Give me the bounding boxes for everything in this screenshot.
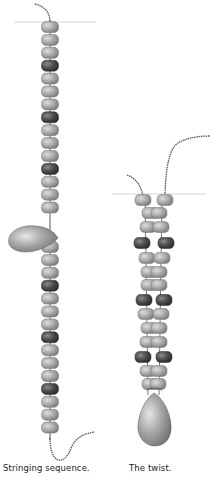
light-bead — [151, 208, 167, 219]
the-twist-figure — [112, 136, 210, 446]
light-bead — [42, 319, 59, 330]
dark-bead — [42, 112, 59, 123]
light-bead — [42, 422, 59, 433]
light-bead — [42, 176, 59, 187]
thread-tail — [50, 432, 95, 460]
light-bead — [42, 254, 59, 265]
light-bead — [42, 22, 59, 33]
light-bead — [42, 202, 59, 213]
light-bead — [42, 125, 59, 136]
thread-right-top — [165, 136, 210, 196]
light-bead — [157, 195, 173, 206]
light-bead — [139, 253, 155, 264]
dark-bead — [42, 280, 59, 291]
light-bead — [42, 345, 59, 356]
caption-the-twist: The twist. — [129, 463, 172, 473]
dark-bead — [42, 332, 59, 343]
light-bead — [151, 337, 167, 348]
drop-bead — [138, 393, 171, 446]
light-bead — [153, 309, 169, 320]
dark-bead — [136, 295, 152, 306]
light-bead — [153, 222, 169, 233]
dark-bead — [42, 163, 59, 174]
caption-stringing-sequence: Stringing sequence. — [3, 463, 90, 473]
light-bead — [154, 253, 170, 264]
light-bead — [42, 371, 59, 382]
dark-bead — [42, 60, 59, 71]
beading-illustration — [0, 0, 216, 477]
light-bead — [138, 309, 154, 320]
thread-left-top — [127, 175, 143, 196]
light-bead — [151, 366, 167, 377]
light-bead — [42, 73, 59, 84]
light-bead — [151, 267, 167, 278]
stringing-sequence-figure — [9, 4, 96, 460]
dark-bead — [156, 295, 172, 306]
light-bead — [42, 86, 59, 97]
light-bead — [42, 306, 59, 317]
light-bead — [42, 151, 59, 162]
light-bead — [42, 189, 59, 200]
light-bead — [42, 267, 59, 278]
dark-bead — [135, 352, 151, 363]
light-bead — [42, 358, 59, 369]
dark-bead — [134, 238, 150, 249]
twisted-bead-strand — [134, 195, 174, 390]
dark-bead — [156, 352, 172, 363]
dark-bead — [158, 238, 174, 249]
light-bead — [42, 34, 59, 45]
light-bead — [42, 409, 59, 420]
light-bead — [42, 293, 59, 304]
dark-bead — [42, 383, 59, 394]
light-bead — [42, 138, 59, 149]
light-bead — [42, 47, 59, 58]
light-bead — [135, 195, 151, 206]
light-bead — [42, 99, 59, 110]
light-bead — [42, 396, 59, 407]
thread-top — [35, 4, 50, 22]
light-bead — [151, 280, 167, 291]
light-bead — [151, 323, 167, 334]
